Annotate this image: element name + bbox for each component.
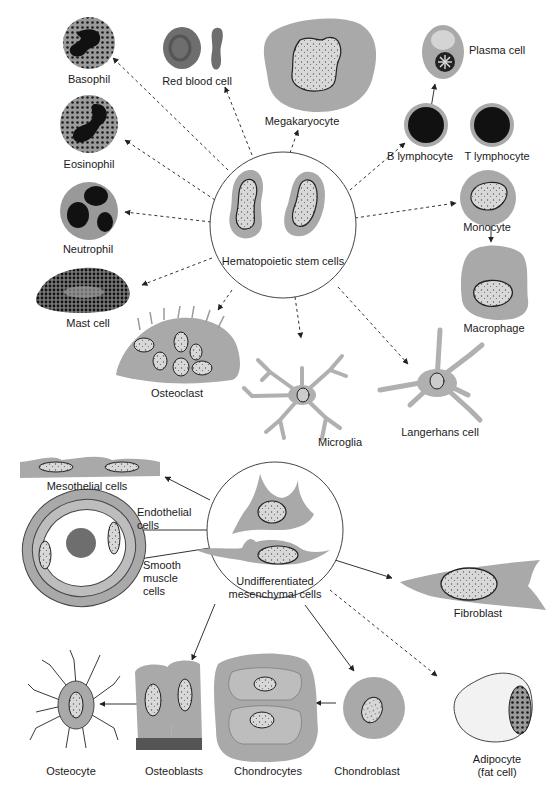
osteoblasts-cell [135,660,202,750]
label-megakaryocyte: Megakaryocyte [265,115,340,128]
label-basophil: Basophil [68,73,110,86]
basophil-cell [63,17,115,69]
neutrophil-cell [60,182,118,240]
label-mesothelial-cells: Mesothelial cells [47,480,128,493]
label-chondrocytes: Chondrocytes [234,765,302,778]
eosinophil-cell [60,95,118,153]
label-mast-cell: Mast cell [66,317,109,330]
label-neutrophil: Neutrophil [63,243,113,256]
fibroblast-cell [400,560,546,610]
t-lymphocyte-cell [470,103,514,147]
osteoclast-cell [116,306,240,383]
osteocyte-cell [28,650,120,748]
label-endothelial-cells: Endothelial cells [137,506,191,532]
macrophage-cell [461,245,528,320]
label-b-lymphocyte: B lymphocyte [387,150,453,163]
label-smooth-muscle-cells: Smooth muscle cells [143,559,181,598]
label-undifferentiated-mesenchymal-cells: Undifferentiated mesenchymal cells [229,575,322,601]
hematopoietic-stem-cells-node [210,152,356,298]
label-adipocyte: Adipocyte (fat cell) [473,753,521,779]
plasma-cell [422,25,464,79]
label-osteoclast: Osteoclast [151,387,203,400]
label-osteocyte: Osteocyte [46,765,96,778]
mesenchymal-dashed-arrow [330,590,437,676]
label-fibroblast: Fibroblast [454,607,502,620]
b-lymphocyte-cell [404,103,448,147]
megakaryocyte-cell [264,18,376,112]
microglia-cell [244,356,346,438]
label-plasma-cell: Plasma cell [469,44,525,57]
chondroblast-cell [343,677,405,739]
label-langerhans-cell: Langerhans cell [401,426,479,439]
mesothelial-cells [20,457,160,478]
mast-cell [36,268,130,313]
adipocyte-cell [454,673,532,742]
label-macrophage: Macrophage [463,322,524,335]
label-red-blood-cell: Red blood cell [162,75,232,88]
label-hematopoietic-stem-cells: Hematopoietic stem cells [222,255,344,268]
blood-vessel [6,472,162,623]
label-chondroblast: Chondroblast [334,765,399,778]
red-blood-cell [163,27,223,70]
label-microglia: Microglia [318,436,362,449]
monocyte-cell [460,170,516,226]
langerhans-cell [380,330,482,420]
label-osteoblasts: Osteoblasts [145,765,203,778]
label-t-lymphocyte: T lymphocyte [464,150,529,163]
chondrocytes-cell [214,654,318,762]
label-monocyte: Monocyte [463,221,511,234]
label-eosinophil: Eosinophil [64,158,115,171]
